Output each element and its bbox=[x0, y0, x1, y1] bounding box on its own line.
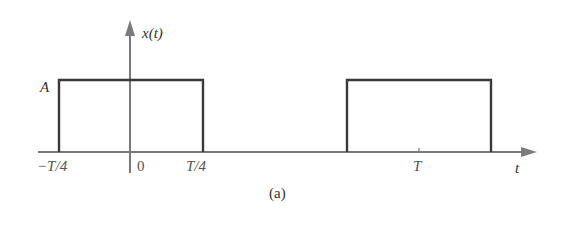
amplitude-label: A bbox=[39, 79, 50, 95]
signal-label: x(t) bbox=[141, 25, 163, 42]
tick-label-neg-quarter: −T/4 bbox=[37, 158, 68, 174]
tick-label-zero: 0 bbox=[137, 158, 145, 174]
tick-label-period: T bbox=[413, 158, 423, 174]
figure-caption: (a) bbox=[269, 185, 286, 202]
amplitude-axis-arrow-icon bbox=[125, 20, 135, 36]
tick-label-pos-quarter: T/4 bbox=[186, 158, 207, 174]
pulse-train-figure: x(t) A −T/4 0 T/4 T t (a) bbox=[0, 0, 563, 227]
time-axis bbox=[38, 147, 537, 157]
pulse-2 bbox=[347, 80, 491, 152]
time-axis-label: t bbox=[515, 160, 520, 176]
amplitude-axis bbox=[125, 20, 135, 173]
time-axis-arrow-icon bbox=[521, 147, 537, 157]
